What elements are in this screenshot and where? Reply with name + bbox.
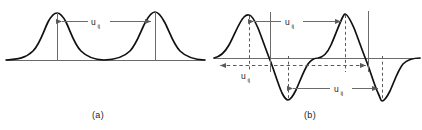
panel-b-measure-top-label: u [285,17,290,27]
panel-b-caption: (b) [304,110,316,120]
panel-a-measure-label: u [91,17,96,27]
panel-b-measure-left-subscript: ij [248,77,251,83]
figure-container: u ij (a) u ij u ij [0,0,422,130]
panel-b-measure-top-subscript: ij [292,23,295,29]
panel-b-measure-bottom-subscript: ij [341,90,344,96]
panel-a-caption: (a) [92,110,104,120]
panel-b-measure-left-label: u [241,71,246,81]
panel-a-measure-subscript: ij [98,23,101,29]
correlation-waveform-figure: u ij (a) u ij u ij [0,0,422,130]
panel-b-measure-bottom-label: u [334,84,339,94]
